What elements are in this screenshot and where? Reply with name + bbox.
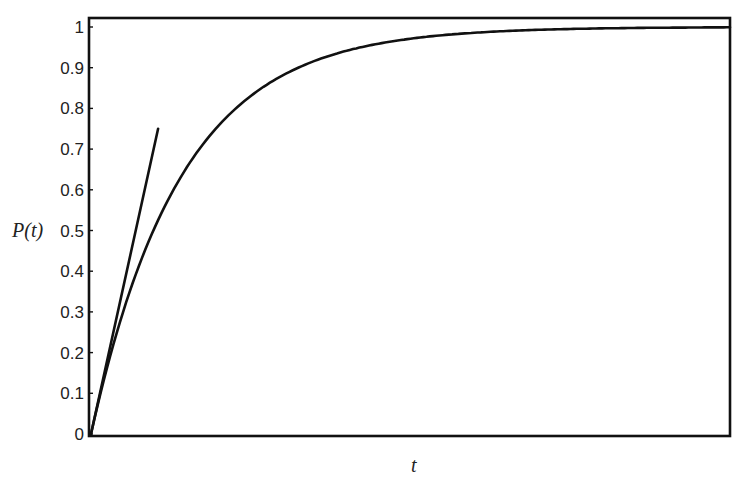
y-tick-label: 0.2	[60, 344, 84, 363]
y-tick-label: 0.4	[60, 262, 84, 281]
tangent-line	[91, 129, 158, 434]
y-tick-label: 0.1	[60, 384, 84, 403]
y-axis-label: P(t)	[11, 219, 43, 242]
y-tick-label: 0.7	[60, 140, 84, 159]
y-tick-label: 0	[75, 425, 84, 444]
plot-frame	[89, 18, 730, 436]
y-tick-label: 1	[75, 18, 84, 37]
y-tick-label: 0.8	[60, 99, 84, 118]
chart: 00.10.20.30.40.50.60.70.80.91 P(t) t	[0, 0, 743, 489]
x-axis-label: t	[411, 454, 417, 476]
y-tick-label: 0.6	[60, 181, 84, 200]
y-tick-label: 0.3	[60, 303, 84, 322]
y-tick-label: 0.5	[60, 222, 84, 241]
saturation-curve	[91, 27, 730, 434]
y-tick-label: 0.9	[60, 59, 84, 78]
